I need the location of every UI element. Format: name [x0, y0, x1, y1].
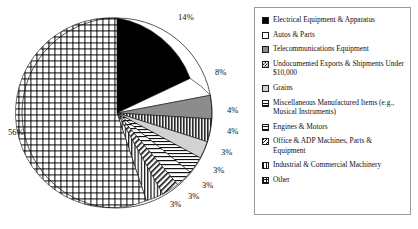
- chart-root: 14% 8% 4% 4% 3% 3% 3% 3% 3% 56% Electric…: [0, 0, 418, 229]
- legend-swatch-horizontal-lines-icon: [262, 100, 269, 107]
- legend-item-autos-parts[interactable]: Autos & Parts: [262, 30, 404, 39]
- legend-item-industrial-commercial-machinery[interactable]: Industrial & Commercial Machinery: [262, 160, 404, 169]
- legend-swatch-dark-vertical-stripes-icon: [262, 61, 269, 68]
- legend-swatch-solid-black-icon: [262, 17, 269, 24]
- legend-label: Engines & Motors: [273, 122, 328, 131]
- legend-item-electrical-equipment[interactable]: Electrical Equipment & Apparatus: [262, 15, 404, 24]
- legend-swatch-diagonal-hatch-icon: [262, 138, 269, 145]
- pie-chart-svg: [0, 0, 248, 229]
- legend-label: Undocumented Exports & Shipments Under $…: [273, 59, 404, 77]
- legend-swatch-medium-gray-icon: [262, 46, 269, 53]
- legend-label: Other: [273, 175, 290, 184]
- legend-item-misc-manufactured-items[interactable]: Miscellaneous Manufactured Items (e.g., …: [262, 98, 404, 116]
- slice-label-8: 8%: [215, 67, 227, 77]
- legend-swatch-grid-crosshatch-icon: [262, 177, 269, 184]
- slice-label-4a: 4%: [227, 105, 239, 115]
- legend-item-office-adp-machines[interactable]: Office & ADP Machines, Parts & Equipment: [262, 136, 404, 154]
- legend-swatch-horizontal-lines-wide-icon: [262, 124, 269, 131]
- legend-swatch-white-icon: [262, 32, 269, 39]
- slice-label-3d: 3%: [188, 191, 200, 201]
- slice-label-14: 14%: [178, 12, 194, 22]
- legend-label: Industrial & Commercial Machinery: [273, 160, 381, 169]
- slice-label-3c: 3%: [202, 180, 214, 190]
- legend-item-other[interactable]: Other: [262, 175, 404, 184]
- slice-label-3b: 3%: [213, 165, 225, 175]
- legend-label: Office & ADP Machines, Parts & Equipment: [273, 136, 404, 154]
- legend-label: Miscellaneous Manufactured Items (e.g., …: [273, 98, 404, 116]
- legend-item-undocumented-exports[interactable]: Undocumented Exports & Shipments Under $…: [262, 59, 404, 77]
- chart-legend: Electrical Equipment & Apparatus Autos &…: [254, 7, 411, 215]
- legend-swatch-light-gray-icon: [262, 85, 269, 92]
- slice-label-4b: 4%: [227, 126, 239, 136]
- legend-label: Autos & Parts: [273, 30, 315, 39]
- legend-swatch-vertical-lines-icon: [262, 162, 269, 169]
- legend-item-telecommunications-equipment[interactable]: Telecommunications Equipment: [262, 44, 404, 53]
- slice-label-56: 56%: [8, 127, 24, 137]
- pie-chart-area: 14% 8% 4% 4% 3% 3% 3% 3% 3% 56%: [0, 0, 248, 229]
- slice-label-3a: 3%: [221, 147, 233, 157]
- legend-label: Telecommunications Equipment: [273, 44, 369, 53]
- legend-label: Electrical Equipment & Apparatus: [273, 15, 375, 24]
- legend-item-grains[interactable]: Grains: [262, 83, 404, 92]
- legend-item-engines-motors[interactable]: Engines & Motors: [262, 122, 404, 131]
- slice-label-3e: 3%: [170, 199, 182, 209]
- legend-label: Grains: [273, 83, 293, 92]
